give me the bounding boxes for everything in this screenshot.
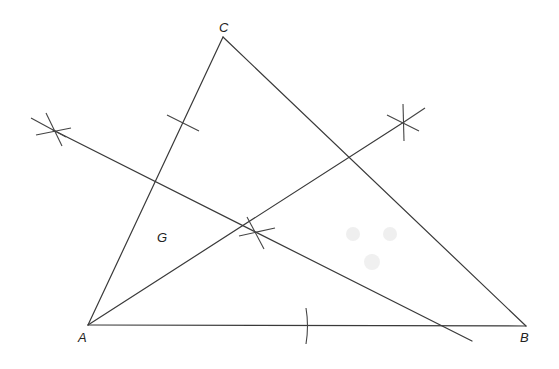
arc-cross-middle-1 (247, 217, 264, 249)
point-labels: C A B G (77, 20, 529, 345)
tick-mark-ca (167, 115, 199, 131)
arc-marks (31, 104, 425, 344)
segment-bc (223, 37, 526, 326)
arc-cross-left-3 (46, 113, 62, 146)
geometry-diagram: C A B G (0, 0, 559, 369)
arc-cross-left-1 (31, 118, 66, 137)
arc-cross-right-3 (404, 108, 425, 122)
label-g: G (157, 230, 167, 245)
label-b: B (520, 330, 529, 345)
watermark-ghost (346, 227, 397, 270)
construction-lines (53, 122, 472, 341)
construction-line-b (53, 130, 472, 341)
label-a: A (77, 330, 87, 345)
label-c: C (219, 20, 229, 35)
